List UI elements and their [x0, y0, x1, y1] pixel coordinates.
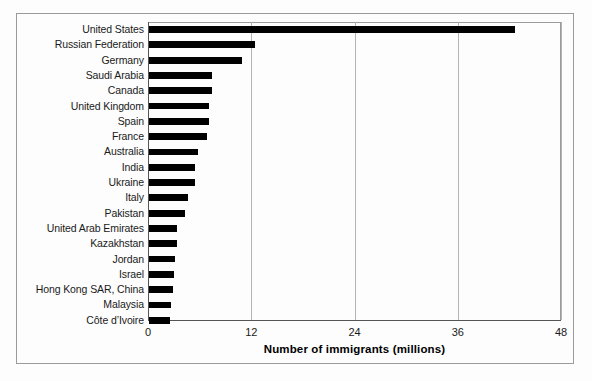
immigrants-bar-chart-figure: United StatesRussian FederationGermanySa…: [0, 0, 592, 381]
x-axis-title: Number of immigrants (millions): [148, 343, 561, 355]
x-tick-label: 0: [128, 325, 168, 339]
category-label: Germany: [0, 53, 144, 68]
bar-row: United Kingdom: [0, 99, 592, 114]
category-label: Jordan: [0, 252, 144, 267]
bar-row: United Arab Emirates: [0, 221, 592, 236]
bar: [149, 225, 177, 232]
x-tick-label: 12: [231, 325, 271, 339]
category-label: Saudi Arabia: [0, 68, 144, 83]
bar-row: Jordan: [0, 252, 592, 267]
x-tick-label: 36: [438, 325, 478, 339]
bar: [149, 194, 188, 201]
x-tick-label: 48: [541, 325, 581, 339]
bar-row: India: [0, 160, 592, 175]
bar-row: Ukraine: [0, 175, 592, 190]
bar-row: Germany: [0, 53, 592, 68]
bar: [149, 149, 198, 156]
category-label: Ukraine: [0, 175, 144, 190]
bar: [149, 302, 171, 309]
bar: [149, 240, 177, 247]
category-label: Australia: [0, 144, 144, 159]
category-label: Canada: [0, 83, 144, 98]
bar-row: United States: [0, 22, 592, 37]
bar: [149, 164, 195, 171]
bar-row: France: [0, 129, 592, 144]
bar: [149, 87, 212, 94]
category-label: Pakistan: [0, 206, 144, 221]
bar: [149, 317, 170, 324]
category-label: United States: [0, 22, 144, 37]
bar: [149, 271, 174, 278]
bar: [149, 41, 255, 48]
category-label: United Arab Emirates: [0, 221, 144, 236]
bar-row: Russian Federation: [0, 37, 592, 52]
category-label: Israel: [0, 267, 144, 282]
category-label: Spain: [0, 114, 144, 129]
bar-row: Spain: [0, 114, 592, 129]
bar-row: Pakistan: [0, 206, 592, 221]
bar: [149, 103, 209, 110]
bar-row: Australia: [0, 144, 592, 159]
category-label: France: [0, 129, 144, 144]
bar: [149, 26, 515, 33]
category-label: Malaysia: [0, 297, 144, 312]
category-label: Italy: [0, 190, 144, 205]
category-label: India: [0, 160, 144, 175]
bar-row: Kazakhstan: [0, 236, 592, 251]
bar: [149, 118, 209, 125]
bar-row: Israel: [0, 267, 592, 282]
bar-row: Italy: [0, 190, 592, 205]
bar: [149, 72, 212, 79]
category-label: Kazakhstan: [0, 236, 144, 251]
bar-row: Canada: [0, 83, 592, 98]
bar: [149, 179, 195, 186]
bar: [149, 57, 242, 64]
category-label: Côte d’Ivoire: [0, 313, 144, 328]
bar: [149, 286, 173, 293]
bar-row: Malaysia: [0, 297, 592, 312]
bar: [149, 210, 185, 217]
bar-row: Côte d’Ivoire: [0, 313, 592, 328]
bar-row: Saudi Arabia: [0, 68, 592, 83]
bar-row: Hong Kong SAR, China: [0, 282, 592, 297]
category-label: Russian Federation: [0, 37, 144, 52]
bar: [149, 256, 175, 263]
category-label: Hong Kong SAR, China: [0, 282, 144, 297]
x-tick-label: 24: [335, 325, 375, 339]
category-label: United Kingdom: [0, 99, 144, 114]
bar: [149, 133, 207, 140]
